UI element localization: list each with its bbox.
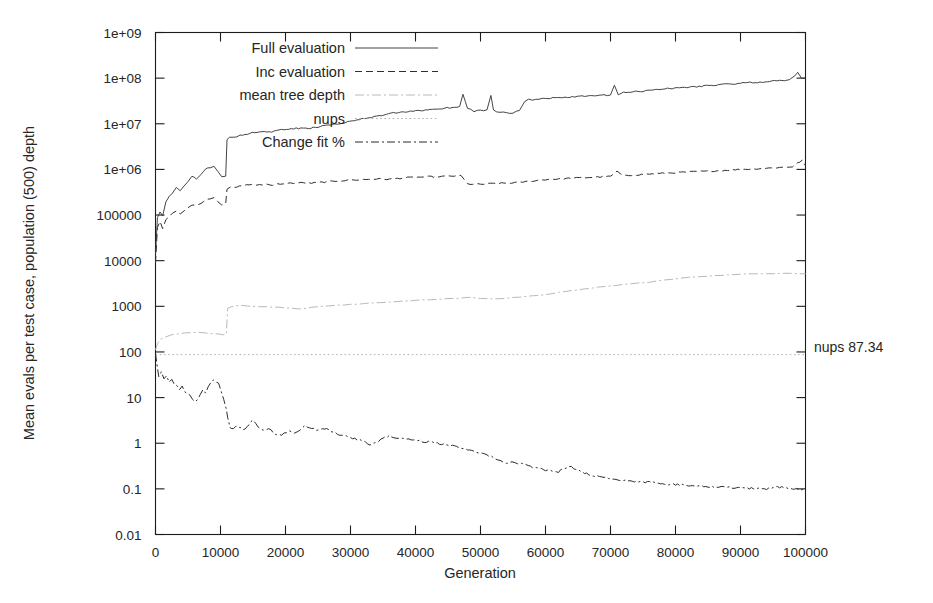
x-tick-label: 60000 [527,545,565,560]
x-tick-label: 80000 [657,545,695,560]
x-tick-label: 40000 [397,545,435,560]
legend-label: nups [314,111,345,127]
y-tick-label: 1 [134,436,142,451]
x-tick-label: 20000 [267,545,305,560]
x-tick-label: 30000 [332,545,370,560]
x-axis-title: Generation [444,565,516,581]
legend-label: Inc evaluation [256,64,345,80]
y-axis-title: Mean evals per test case, population (50… [21,126,37,440]
y-tick-label: 1e+07 [104,117,142,132]
legend-label: Full evaluation [252,40,346,56]
y-tick-label: 0.1 [123,482,142,497]
y-tick-label: 1e+08 [104,71,142,86]
nups-annotation: nups 87.34 [814,339,883,355]
x-tick-label: 70000 [592,545,630,560]
legend-label: mean tree depth [239,87,345,103]
y-tick-label: 100 [119,345,142,360]
x-tick-label: 10000 [202,545,240,560]
x-tick-label: 90000 [722,545,760,560]
x-tick-label: 0 [152,545,160,560]
y-tick-label: 10 [126,391,141,406]
y-tick-label: 10000 [104,254,142,269]
y-tick-label: 1e+06 [104,162,142,177]
chart-svg: 0.010.11101001000100001000001e+061e+071e… [0,0,933,603]
y-tick-label: 100000 [96,208,141,223]
y-tick-label: 1e+09 [104,26,142,41]
legend-label: Change fit % [262,134,345,150]
y-tick-label: 0.01 [115,528,141,543]
x-tick-label: 50000 [462,545,500,560]
y-tick-label: 1000 [111,299,141,314]
x-tick-label: 100000 [783,545,828,560]
chart-figure: 0.010.11101001000100001000001e+061e+071e… [0,0,933,603]
